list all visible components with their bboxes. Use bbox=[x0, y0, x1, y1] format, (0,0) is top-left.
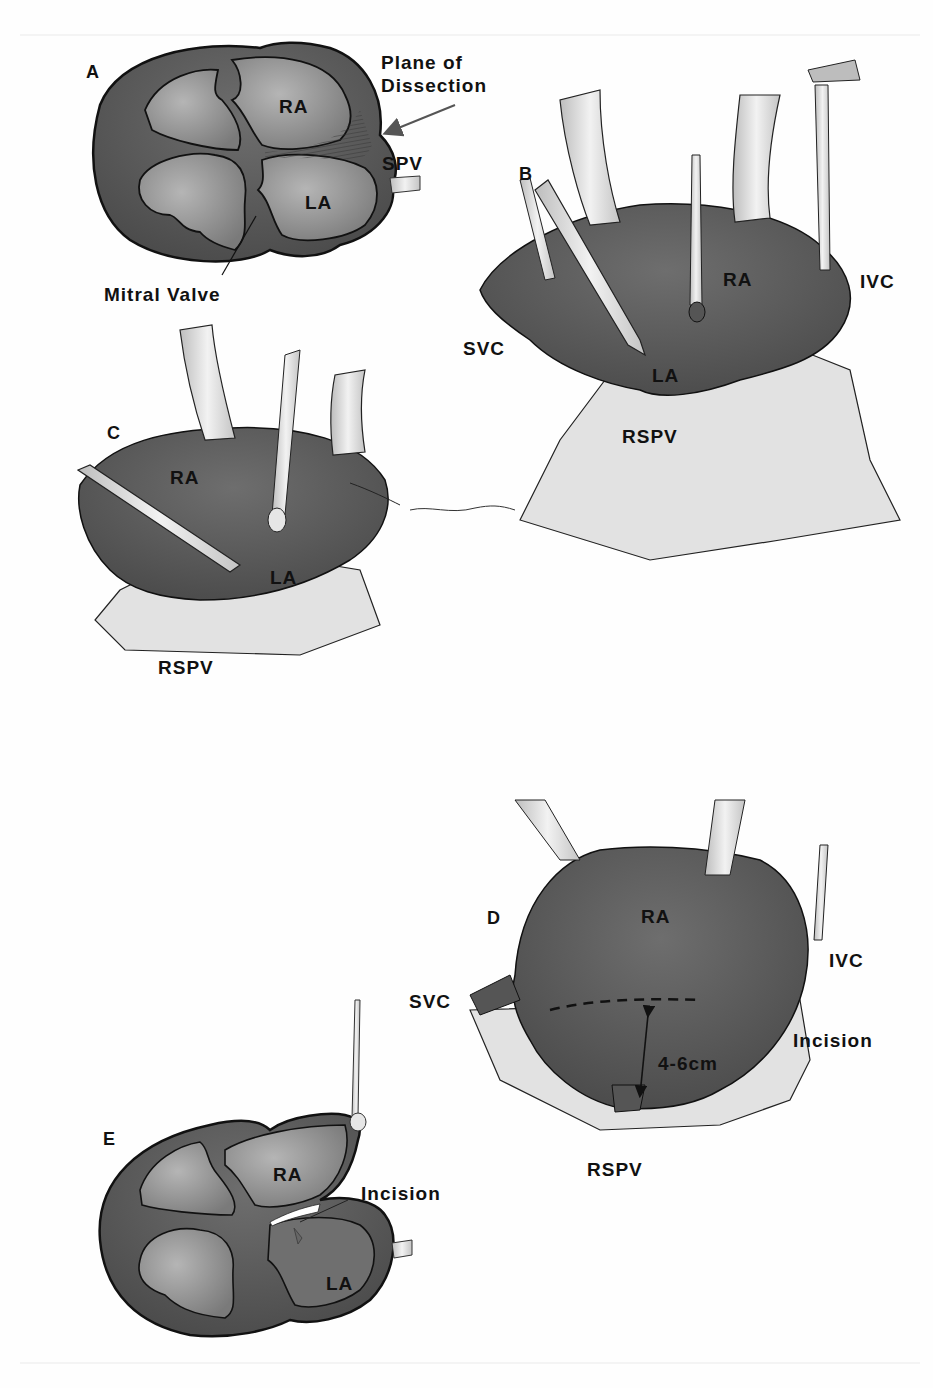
panel-d-exposed-heart bbox=[470, 800, 828, 1130]
panel-e-la-label: LA bbox=[326, 1274, 353, 1293]
panel-b-exposed-heart bbox=[480, 60, 900, 560]
panel-d-incision-label: Incision bbox=[793, 1031, 873, 1050]
panel-d-letter: D bbox=[487, 909, 501, 927]
panel-e-ra-label: RA bbox=[273, 1165, 302, 1184]
panel-d-ivc-label: IVC bbox=[829, 951, 864, 970]
panel-a-la-label: LA bbox=[305, 193, 332, 212]
panel-d-rspv-label: RSPV bbox=[587, 1160, 643, 1179]
panel-b-svc-label: SVC bbox=[463, 339, 505, 358]
panel-e-heart-section bbox=[100, 1000, 412, 1336]
panel-c-rspv-label: RSPV bbox=[158, 658, 214, 677]
panel-a-ra-label: RA bbox=[279, 97, 308, 116]
panel-e-letter: E bbox=[103, 1130, 116, 1148]
panel-a-plane-label-line1: Plane of bbox=[381, 53, 463, 72]
panel-c-exposed-heart bbox=[78, 325, 515, 655]
panel-d-svc-label: SVC bbox=[409, 992, 451, 1011]
panel-a-plane-label-line2: Dissection bbox=[381, 76, 487, 95]
panel-b-la-label: LA bbox=[652, 366, 679, 385]
panel-e-incision-label: Incision bbox=[361, 1184, 441, 1203]
figure-page: A RA LA SPV Plane of Dissection Mitral V… bbox=[0, 0, 933, 1388]
panel-d-ra-label: RA bbox=[641, 907, 670, 926]
illustration-canvas bbox=[0, 0, 933, 1388]
panel-a-letter: A bbox=[86, 63, 100, 81]
panel-c-ra-label: RA bbox=[170, 468, 199, 487]
panel-b-rspv-label: RSPV bbox=[622, 427, 678, 446]
panel-b-ra-label: RA bbox=[723, 270, 752, 289]
panel-c-la-label: LA bbox=[270, 568, 297, 587]
panel-d-measurement-label: 4-6cm bbox=[658, 1054, 718, 1073]
panel-a-spv-label: SPV bbox=[382, 154, 423, 173]
panel-b-ivc-label: IVC bbox=[860, 272, 895, 291]
panel-c-letter: C bbox=[107, 424, 121, 442]
panel-a-mitral-valve-label: Mitral Valve bbox=[104, 285, 221, 304]
panel-b-letter: B bbox=[519, 165, 533, 183]
